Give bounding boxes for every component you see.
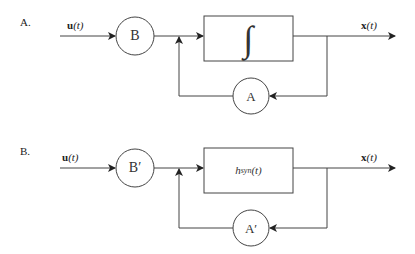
input-gain-node-b: B xyxy=(116,17,154,55)
diagram-a-output-label: x(t) xyxy=(361,20,377,31)
diagram-b-input-label: u(t) xyxy=(62,152,79,163)
integrator-block: ∫ xyxy=(204,16,293,61)
diagram-b-output-label: x(t) xyxy=(361,152,377,163)
synaptic-filter-block: hsyn(t) xyxy=(204,148,293,193)
diagram-a-input-label: u(t) xyxy=(67,20,84,31)
diagram-a-label: A. xyxy=(20,17,31,28)
input-gain-node-b-prime: B′ xyxy=(116,149,154,187)
feedback-gain-node-a: A xyxy=(233,78,269,114)
diagram-b-label: B. xyxy=(20,146,30,157)
feedback-gain-node-a-prime: A′ xyxy=(233,210,269,246)
